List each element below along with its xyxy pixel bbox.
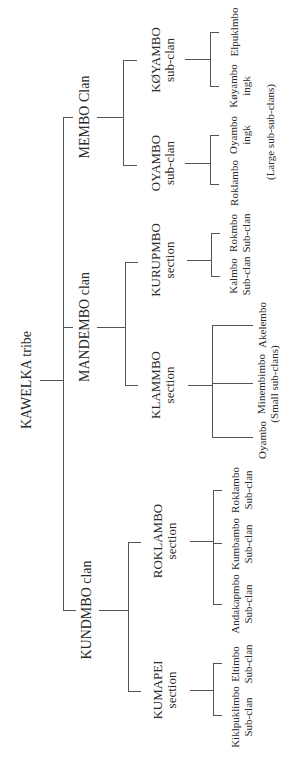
node-subtitle: section [165,504,179,578]
clan-node-membo: MEMBO Clan [78,76,93,159]
clan-node-mandembo: MANDEMBO clan [78,272,93,382]
leaf-node-oyambo-small: Oyambo [256,421,269,459]
leaf-title: Kiklpuklimbo [229,686,242,748]
node-title: KLAMMBO [149,351,163,419]
leaf-title: Oyambo [256,421,269,459]
node-title: KUMAPEI [151,660,165,719]
leaf-title: Kumbambo [229,518,242,570]
leaf-node-kumbambo: Kumbambo Sub-clan [229,518,254,570]
node-title: OYAMBO [149,135,163,191]
leaf-node-oyambo-ingk: Oyambo ingk [227,116,252,154]
leaf-title: Akelembo [256,302,269,348]
leaf-title: Oyambo [227,116,240,154]
leaf-title: Elpuklmbo [228,8,241,57]
leaf-node-rokmbo: Rokmbo Sub-clan [227,213,252,252]
leaf-node-roklambo-subclan: Roklambo Sub-clan [229,467,254,513]
leaf-node-roklambo: Roklambo [228,160,241,206]
node-title: ROKLAMBO [151,504,165,578]
leaf-title: Kalmbo [227,256,240,295]
leaf-subtitle: Sub-clan [240,256,253,295]
node-subtitle: sub-clan [163,135,177,191]
leaf-node-andakapmbo: Andakapmbo Sub-clan [229,574,254,633]
leaf-subtitle: Sub-clan [242,686,255,748]
leaf-node-akelembo: Akelembo [256,302,269,348]
subclan-node-koyambo: KØYAMBO sub-clan [149,27,178,93]
leaf-title: Køyambo [227,64,240,107]
subclan-node-oyambo: OYAMBO sub-clan [149,135,178,191]
leaf-node-eltimbo: Eltimbo Sub-clan [229,644,254,683]
leaf-subtitle: ingk [240,64,253,107]
leaf-node-koyambo-ingk: Køyambo ingk [227,64,252,107]
leaf-subtitle: Sub-clan [242,574,255,633]
node-subtitle: section [163,223,177,297]
leaf-title: Roklambo [229,467,242,513]
leaf-title: Minembimbo [255,345,268,422]
node-subtitle: sub-clan [163,27,177,93]
root-node-kawelka-tribe: KAWELKA tribe [20,331,35,429]
section-node-kumapei: KUMAPEI section [151,660,180,719]
leaf-title: Andakapmbo [229,574,242,633]
note-small-sub-clans: (Small sub-clans) [268,345,281,422]
kinship-tree-diagram: KAWELKA tribe MEMBO Clan MANDEMBO clan K… [0,0,295,766]
clan-node-kundmbo: KUNDMBO clan [80,560,95,659]
node-subtitle: section [163,351,177,419]
leaf-title: Roklambo [228,160,241,206]
leaf-title: Eltimbo [229,644,242,683]
leaf-node-minembimbo: Minembimbo (Small sub-clans) [255,345,280,422]
leaf-subtitle: Sub-clan [242,467,255,513]
leaf-subtitle: Sub-clan [242,644,255,683]
section-node-roklambo: ROKLAMBO section [151,504,180,578]
leaf-subtitle: Sub-clan [242,518,255,570]
leaf-subtitle: ingk [240,116,253,154]
node-title: KØYAMBO [149,27,163,93]
node-title: KURUPMBO [149,223,163,297]
section-node-klammbo: KLAMMBO section [149,351,178,419]
leaf-node-kalmbo: Kalmbo Sub-clan [227,256,252,295]
leaf-subtitle: Sub-clan [240,213,253,252]
leaf-node-kiklpuklimbo: Kiklpuklimbo Sub-clan [229,686,254,748]
section-node-kurupmbo: KURUPMBO section [149,223,178,297]
leaf-node-elpuklmbo: Elpuklmbo [228,8,241,57]
node-subtitle: section [165,660,179,719]
leaf-title: Rokmbo [227,213,240,252]
note-large-sub-sub-clans: (Large sub-sub-clans) [265,84,277,180]
